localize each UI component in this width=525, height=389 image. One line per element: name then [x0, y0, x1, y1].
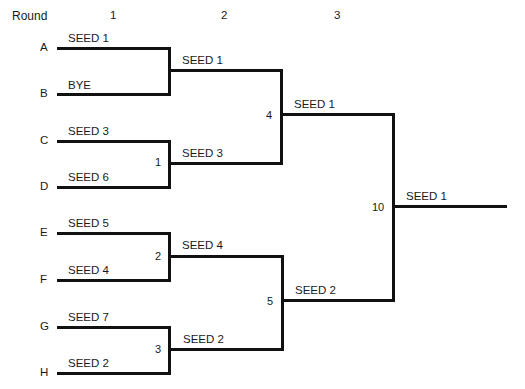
- bracket-line-h: [57, 372, 170, 375]
- bracket-connector-r2-top: [280, 69, 283, 165]
- bracket-line-d: [57, 186, 170, 189]
- bracket-line-e: [57, 232, 170, 235]
- game-number-1: 1: [155, 157, 161, 168]
- slot-letter-a: A: [40, 42, 48, 54]
- bracket-line-g: [57, 326, 170, 329]
- bracket-connector-final: [392, 113, 395, 302]
- entrant-f: SEED 4: [68, 265, 109, 277]
- winner-game-2: SEED 4: [182, 240, 223, 252]
- game-number-3: 3: [155, 344, 161, 355]
- winner-game-ab: SEED 1: [182, 55, 223, 67]
- slot-letter-c: C: [40, 135, 48, 147]
- bracket-connector-r2-bottom: [281, 255, 284, 351]
- entrant-a: SEED 1: [68, 33, 109, 45]
- bracket-line-final: [393, 205, 507, 208]
- bracket-line-a: [57, 47, 170, 50]
- bracket-line-f: [57, 279, 170, 282]
- entrant-h: SEED 2: [68, 358, 109, 370]
- slot-letter-g: G: [40, 321, 49, 333]
- slot-letter-b: B: [40, 88, 48, 100]
- bracket-line-r2-2: [169, 162, 282, 165]
- round-header-label: Round: [12, 10, 47, 22]
- slot-letter-h: H: [40, 367, 48, 379]
- bracket-connector-ab: [168, 47, 171, 96]
- winner-game-4: SEED 1: [294, 99, 335, 111]
- entrant-e: SEED 5: [68, 218, 109, 230]
- slot-letter-d: D: [40, 181, 48, 193]
- winner-game-1: SEED 3: [182, 148, 223, 160]
- bracket-line-r2-4: [169, 348, 282, 351]
- bracket-line-r3-top: [281, 113, 394, 116]
- winner-game-3: SEED 2: [183, 334, 224, 346]
- game-number-4: 4: [266, 110, 272, 121]
- slot-letter-e: E: [40, 227, 48, 239]
- bracket-connector-gh: [168, 326, 171, 375]
- entrant-b: BYE: [68, 80, 91, 92]
- entrant-d: SEED 6: [68, 172, 109, 184]
- bracket-connector-cd: [168, 140, 171, 189]
- game-number-10: 10: [372, 202, 384, 213]
- bracket-line-c: [57, 140, 170, 143]
- game-number-5: 5: [267, 296, 273, 307]
- round-3-header: 3: [334, 10, 340, 22]
- round-1-header: 1: [110, 10, 116, 22]
- entrant-c: SEED 3: [68, 126, 109, 138]
- entrant-g: SEED 7: [68, 312, 109, 324]
- bracket-line-b: [57, 93, 170, 96]
- bracket-line-r2-1: [169, 69, 282, 72]
- slot-letter-f: F: [40, 274, 47, 286]
- bracket-line-r3-bottom: [282, 299, 394, 302]
- winner-game-5: SEED 2: [295, 285, 336, 297]
- champion-label: SEED 1: [406, 191, 447, 203]
- round-2-header: 2: [221, 10, 227, 22]
- game-number-2: 2: [155, 251, 161, 262]
- bracket-line-r2-3: [169, 255, 282, 258]
